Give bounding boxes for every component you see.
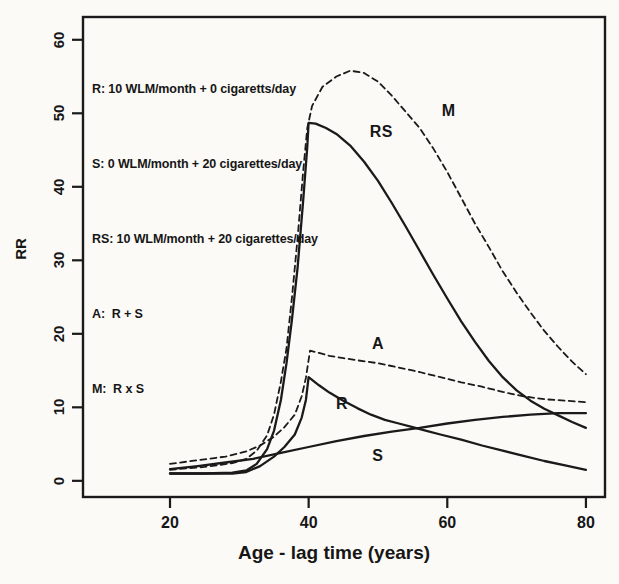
legend-line-a: A: R + S (92, 302, 318, 327)
x-tick-label: 40 (287, 513, 331, 533)
legend-line-s: S: 0 WLM/month + 20 cigarettes/day (92, 152, 318, 177)
curve-label-a: A (372, 335, 384, 353)
x-tick-label: 20 (148, 513, 192, 533)
figure-scan: R: 10 WLM/month + 0 cigaretts/day S: 0 W… (0, 0, 619, 584)
y-tick-label: 50 (48, 97, 70, 129)
x-axis-title: Age - lag time (years) (214, 540, 454, 566)
x-tick-label: 60 (425, 513, 469, 533)
curve-label-rs: RS (370, 123, 393, 141)
y-tick-label: 20 (48, 318, 70, 350)
y-tick-label: 0 (48, 465, 70, 497)
curve-label-s: S (372, 447, 383, 465)
y-tick-label: 10 (48, 391, 70, 423)
legend-line-m: M: R x S (92, 377, 318, 402)
curve-label-m: M (442, 102, 456, 120)
y-tick-label: 40 (48, 171, 70, 203)
y-axis-title: RR (10, 225, 32, 273)
x-tick-label: 80 (564, 513, 608, 533)
legend-line-rs: RS: 10 WLM/month + 20 cigarettes/day (92, 227, 318, 252)
legend: R: 10 WLM/month + 0 cigaretts/day S: 0 W… (92, 27, 318, 452)
legend-line-r: R: 10 WLM/month + 0 cigaretts/day (92, 77, 318, 102)
y-tick-label: 30 (48, 244, 70, 276)
y-tick-label: 60 (48, 24, 70, 56)
curve-label-r: R (336, 395, 348, 413)
